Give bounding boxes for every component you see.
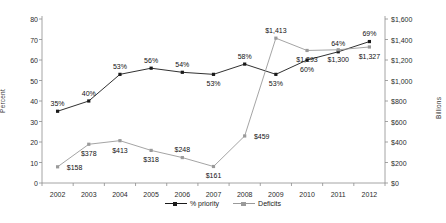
plot-area [0, 0, 446, 223]
data-point-marker [337, 48, 340, 51]
data-point-label: $378 [81, 150, 97, 157]
data-point-marker [87, 99, 90, 102]
y-axis-left-tick-label: 40 [10, 98, 38, 105]
data-point-label: 40% [82, 89, 96, 96]
x-axis-tick-label: 2009 [268, 191, 284, 198]
y-axis-left-tick-label: 50 [10, 77, 38, 84]
x-axis-tick-label: 2008 [237, 191, 253, 198]
data-point-label: $248 [175, 146, 191, 153]
data-point-label: $318 [143, 156, 159, 163]
data-point-label: 58% [238, 52, 252, 59]
data-point-label: 60% [300, 66, 314, 73]
y-axis-right-tick-label: $1,600 [391, 16, 412, 23]
data-point-marker [56, 110, 59, 113]
x-axis-tick-label: 2006 [175, 191, 191, 198]
data-point-marker [274, 37, 277, 40]
data-point-label: $459 [254, 132, 270, 139]
legend-item-deficits[interactable]: Deficits [233, 200, 281, 207]
data-point-label: 56% [144, 56, 158, 63]
y-axis-left-tick-label: 0 [10, 180, 38, 187]
data-point-label: 54% [175, 60, 189, 67]
data-point-label: $161 [206, 172, 222, 179]
y-axis-left-tick-label: 60 [10, 57, 38, 64]
legend-swatch-icon [165, 200, 187, 207]
series-line--priority [58, 42, 370, 112]
data-point-marker [150, 67, 153, 70]
x-axis-tick-label: 2011 [331, 191, 346, 198]
data-point-marker [274, 73, 277, 76]
data-point-label: $158 [67, 163, 83, 170]
data-point-marker [118, 139, 121, 142]
y-axis-left-tick-label: 30 [10, 118, 38, 125]
data-point-marker [181, 71, 184, 74]
data-point-marker [368, 45, 371, 48]
data-point-marker [56, 165, 59, 168]
x-axis-tick-label: 2010 [299, 191, 315, 198]
y-axis-left-tick-label: 20 [10, 139, 38, 146]
data-point-marker [243, 63, 246, 66]
data-point-marker [243, 134, 246, 137]
y-axis-left-tick-label: 10 [10, 159, 38, 166]
data-point-label: 35% [51, 99, 65, 106]
y-axis-right-tick-label: $600 [391, 118, 407, 125]
x-axis-tick-label: 2005 [143, 191, 159, 198]
data-point-marker [368, 40, 371, 43]
y-axis-left-tick-label: 70 [10, 36, 38, 43]
data-point-label: $413 [112, 146, 128, 153]
data-point-marker [181, 156, 184, 159]
legend-swatch-icon [233, 200, 255, 207]
y-axis-right-tick-label: $0 [391, 180, 399, 187]
data-point-label: $1,293 [296, 56, 317, 63]
y-axis-right-tick-label: $200 [391, 159, 407, 166]
y-axis-left-tick-label: 80 [10, 16, 38, 23]
y-axis-right-tick-label: $400 [391, 139, 407, 146]
y-axis-right-tick-label: $800 [391, 98, 407, 105]
data-point-label: 53% [206, 80, 220, 87]
data-point-marker [212, 165, 215, 168]
legend-label: % priority [190, 200, 219, 207]
data-point-label: 53% [269, 80, 283, 87]
data-point-label: $1,300 [328, 55, 349, 62]
data-point-label: 69% [362, 30, 376, 37]
y-axis-right-tick-label: $1,000 [391, 77, 412, 84]
series-line-deficits [58, 38, 370, 167]
data-point-label: 53% [113, 62, 127, 69]
chart-legend: % priorityDeficits [0, 200, 446, 207]
data-point-marker [87, 143, 90, 146]
legend-label: Deficits [258, 200, 281, 207]
data-point-label: $1,327 [359, 52, 380, 59]
data-point-marker [305, 49, 308, 52]
data-point-marker [150, 149, 153, 152]
deficit-priority-line-chart: Percent Billions 01020304050607080$0$200… [0, 0, 446, 223]
data-point-marker [212, 73, 215, 76]
data-point-label: $1,413 [265, 26, 286, 33]
x-axis-tick-label: 2012 [362, 191, 378, 198]
y-axis-right-tick-label: $1,400 [391, 36, 412, 43]
data-point-marker [118, 73, 121, 76]
x-axis-tick-label: 2007 [206, 191, 222, 198]
x-axis-tick-label: 2003 [81, 191, 97, 198]
data-point-label: 64% [331, 40, 345, 47]
y-axis-right-tick-label: $1,200 [391, 57, 412, 64]
legend-item--priority[interactable]: % priority [165, 200, 219, 207]
x-axis-tick-label: 2004 [112, 191, 128, 198]
x-axis-tick-label: 2002 [50, 191, 66, 198]
